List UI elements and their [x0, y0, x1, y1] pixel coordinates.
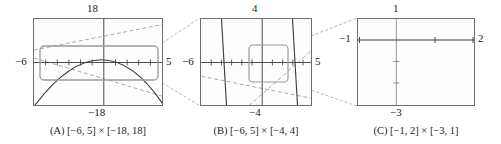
- zoom-sequence-figure: 18 −18 −6 5 (A) [−6, 5] × [−18, 18]: [0, 0, 501, 144]
- panel-c-left-label: −1: [339, 33, 351, 44]
- panel-c-caption: (C) [−1, 2] × [−3, 1]: [340, 126, 492, 137]
- panel-c-plot: [0, 0, 501, 144]
- panel-c-bottom-label: −3: [390, 107, 402, 118]
- panel-c-right-label: 2: [478, 33, 484, 44]
- panel-c-top-label: 1: [393, 3, 399, 14]
